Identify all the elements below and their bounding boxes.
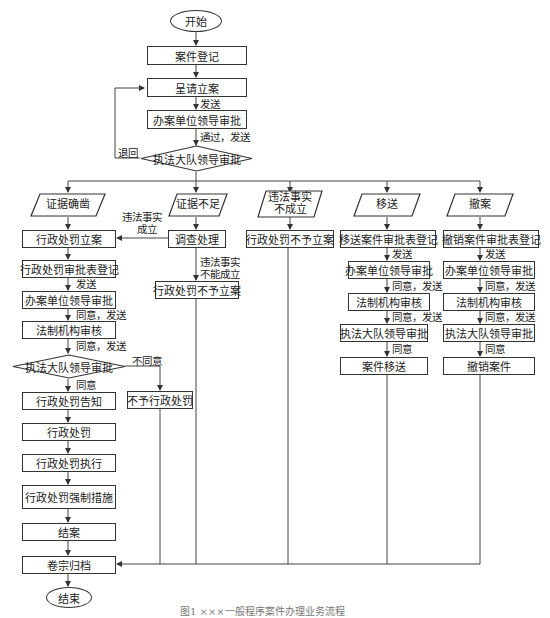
col2-not-established-label: 违法事实不能成立 — [200, 256, 240, 280]
step-register: 案件登记 — [147, 46, 247, 65]
col1-disagree-label: 不同意 — [132, 355, 162, 367]
branch-facts-line2: 不成立 — [274, 203, 307, 216]
col5-step-0: 撤销案件审批表登记 — [443, 230, 539, 248]
step-unit-leader-label: 办案单位领导审批 — [153, 112, 241, 128]
edge-label-send: 发送 — [200, 98, 220, 110]
branch-evidence-solid-label: 证据确凿 — [46, 199, 90, 211]
col5-step-2-label: 法制机构审核 — [456, 294, 522, 310]
col1-step-8-label: 行政处罚强制措施 — [25, 489, 113, 505]
col1-step-1: 行政处罚审批表登记 — [22, 260, 116, 278]
col1-step-7: 行政处罚执行 — [22, 454, 116, 472]
col2-not-established-line1: 违法事实 — [200, 256, 240, 268]
decision-brigade-leader-label: 执法大队领导审批 — [153, 151, 241, 167]
col2-result-label: 行政处罚不予立案 — [153, 282, 241, 298]
branch-withdraw: 撤案 — [446, 193, 514, 217]
col1-step-3: 法制机构审核 — [22, 321, 116, 339]
branch-facts-not-established: 违法事实不成立 — [257, 190, 323, 218]
col4-edge-3: 同意 — [392, 343, 412, 355]
col1-step-5-label: 行政处罚告知 — [36, 393, 102, 409]
col1-step-2: 办案单位领导审批 — [22, 291, 116, 309]
step-unit-leader: 办案单位领导审批 — [147, 110, 247, 129]
branch-evidence-solid: 证据确凿 — [30, 193, 106, 217]
col1-step-6-label: 行政处罚 — [47, 424, 91, 440]
col4-step-1: 办案单位领导审批 — [348, 261, 430, 279]
col4-step-4: 案件移送 — [340, 357, 428, 375]
col1-step-3-label: 法制机构审核 — [36, 322, 102, 338]
col1-disagree-result-label: 不予行政处罚 — [127, 392, 193, 408]
col1-step-7-label: 行政处罚执行 — [36, 455, 102, 471]
step-register-label: 案件登记 — [175, 48, 219, 64]
col1-step-5: 行政处罚告知 — [22, 392, 116, 410]
branch-withdraw-label: 撤案 — [469, 199, 491, 211]
start-label: 开始 — [185, 13, 207, 29]
branch-evidence-insufficient: 证据不足 — [168, 193, 228, 217]
col5-step-2: 法制机构审核 — [443, 293, 535, 311]
col2-result: 行政处罚不予立案 — [155, 281, 239, 299]
col4-step-3: 执法大队领导审批 — [340, 324, 428, 342]
col5-step-4: 撤销案件 — [443, 357, 535, 375]
col1-decision: 执法大队领导审批 — [12, 354, 126, 379]
col5-edge-0: 发送 — [485, 248, 505, 260]
col1-edge-3: 同意 — [76, 379, 96, 391]
col1-step-1-label: 行政处罚审批表登记 — [20, 261, 119, 277]
col2-investigate: 调查处理 — [168, 230, 226, 248]
start-terminal: 开始 — [170, 10, 222, 32]
branch-transfer: 移送 — [353, 193, 421, 217]
edge-label-return: 退回 — [118, 147, 138, 159]
col5-step-0-label: 撤销案件审批表登记 — [442, 231, 541, 247]
col5-edge-2: 同意，发送 — [485, 311, 535, 323]
col1-step-9-label: 结案 — [58, 524, 80, 540]
step-submit: 呈请立案 — [147, 78, 247, 97]
branch-evidence-insufficient-label: 证据不足 — [176, 199, 220, 211]
edge-label-pass-send: 通过，发送 — [200, 131, 250, 143]
col3-result-label: 行政处罚不予立案 — [246, 231, 334, 247]
end-terminal: 结束 — [46, 587, 92, 608]
col1-step-0-label: 行政处罚立案 — [36, 231, 102, 247]
archive-label: 卷宗归档 — [47, 557, 91, 573]
col1-step-0: 行政处罚立案 — [22, 230, 116, 248]
col4-step-3-label: 执法大队领导审批 — [340, 325, 428, 341]
col2-investigate-label: 调查处理 — [175, 231, 219, 247]
col4-edge-0: 发送 — [392, 248, 412, 260]
step-submit-label: 呈请立案 — [175, 80, 219, 96]
col4-step-0: 移送案件审批表登记 — [340, 230, 436, 248]
col5-step-4-label: 撤销案件 — [467, 358, 511, 374]
col1-edge-2: 同意，发送 — [76, 340, 126, 352]
col4-step-2-label: 法制机构审核 — [356, 294, 422, 310]
col1-disagree-result: 不予行政处罚 — [127, 391, 193, 409]
col4-step-2: 法制机构审核 — [348, 293, 430, 311]
col5-edge-3: 同意 — [485, 343, 505, 355]
col4-step-4-label: 案件移送 — [362, 358, 406, 374]
col4-edge-2: 同意，发送 — [392, 311, 442, 323]
col4-step-1-label: 办案单位领导审批 — [345, 262, 433, 278]
col2-established-line1: 违法事实 — [122, 211, 162, 223]
col5-step-1-label: 办案单位领导审批 — [445, 262, 533, 278]
col4-edge-1: 同意，发送 — [392, 280, 442, 292]
figure-caption: 图1 ×××一般程序案件办理业务流程 — [180, 603, 345, 618]
col1-edge-0: 发送 — [76, 278, 96, 290]
end-label: 结束 — [58, 590, 80, 606]
col2-established-line2: 成立 — [127, 223, 157, 235]
col2-not-established-line2: 不能成立 — [200, 268, 240, 280]
col4-step-0-label: 移送案件审批表登记 — [339, 231, 438, 247]
col1-decision-label: 执法大队领导审批 — [25, 359, 113, 375]
col1-edge-1: 同意，发送 — [76, 309, 126, 321]
col1-step-8: 行政处罚强制措施 — [22, 485, 116, 509]
col1-step-6: 行政处罚 — [22, 423, 116, 441]
decision-brigade-leader: 执法大队领导审批 — [140, 145, 253, 172]
col1-step-9: 结案 — [22, 523, 116, 541]
col3-result: 行政处罚不予立案 — [246, 230, 334, 248]
col5-step-1: 办案单位领导审批 — [443, 261, 535, 279]
archive-box: 卷宗归档 — [22, 556, 116, 574]
branch-transfer-label: 移送 — [376, 199, 398, 211]
col2-established-label: 违法事实成立 — [122, 211, 162, 235]
col5-edge-1: 同意，发送 — [485, 280, 535, 292]
col5-step-3: 执法大队领导审批 — [443, 324, 535, 342]
col5-step-3-label: 执法大队领导审批 — [445, 325, 533, 341]
col1-step-2-label: 办案单位领导审批 — [25, 292, 113, 308]
